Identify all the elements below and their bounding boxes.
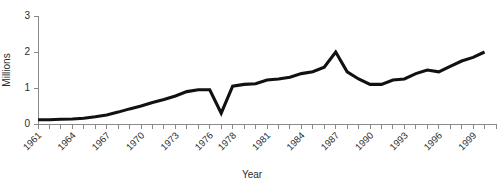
y-tick-group (34, 16, 38, 124)
x-tick-label: 1964 (55, 130, 78, 153)
x-tick-label: 1978 (215, 130, 238, 153)
x-tick-label: 1967 (89, 130, 112, 153)
y-axis: 0123 (24, 10, 38, 129)
chart-figure: 0123 19611964196719701973197619781981198… (0, 0, 504, 187)
x-tick-label: 1984 (284, 130, 307, 153)
x-tick-label: 1987 (318, 130, 341, 153)
x-tick-label-group: 1961196419671970197319761978198119841987… (21, 130, 479, 153)
y-tick-label: 3 (24, 10, 30, 21)
y-tick-label: 1 (24, 82, 30, 93)
x-tick-label: 1996 (421, 130, 444, 153)
x-tick-label: 1999 (456, 130, 479, 153)
x-tick-label: 1993 (387, 130, 410, 153)
x-axis: 1961196419671970197319761978198119841987… (21, 124, 496, 152)
x-axis-title: Year (242, 169, 263, 180)
y-tick-label: 2 (24, 46, 30, 57)
y-tick-label-group: 0123 (24, 10, 30, 129)
y-tick-label: 0 (24, 118, 30, 129)
x-tick-label: 1973 (158, 130, 181, 153)
x-tick-label: 1961 (21, 130, 44, 153)
x-tick-label: 1981 (250, 130, 273, 153)
line-chart: 0123 19611964196719701973197619781981198… (0, 0, 504, 187)
x-tick-label: 1976 (192, 130, 215, 153)
x-tick-label: 1970 (124, 130, 147, 153)
y-axis-title: Millions (1, 53, 12, 86)
x-tick-label: 1990 (353, 130, 376, 153)
data-series-line (38, 52, 485, 120)
x-tick-group (38, 124, 496, 129)
